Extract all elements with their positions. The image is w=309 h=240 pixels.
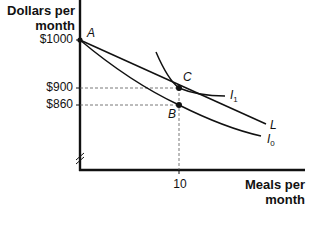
label-A: A (87, 26, 95, 40)
label-I0: I0 (267, 132, 275, 148)
point-C (176, 85, 182, 91)
label-C: C (183, 70, 192, 84)
label-I0-sub: 0 (270, 139, 274, 148)
x-tick-10: 10 (172, 177, 188, 191)
point-A (77, 37, 82, 42)
label-L: L (270, 118, 277, 132)
x-axis-label: Meals per month (245, 177, 305, 207)
x-axis-label-line2: month (245, 192, 305, 207)
y-tick-900: $900 (13, 80, 73, 94)
y-tick-860: $860 (13, 97, 73, 111)
x-axis-label-line1: Meals per (245, 177, 305, 192)
point-B (176, 102, 182, 108)
label-I1: I1 (230, 88, 238, 104)
y-tick-1000: $1000 (13, 32, 73, 46)
label-I1-sub: 1 (233, 95, 237, 104)
label-B: B (168, 107, 176, 121)
